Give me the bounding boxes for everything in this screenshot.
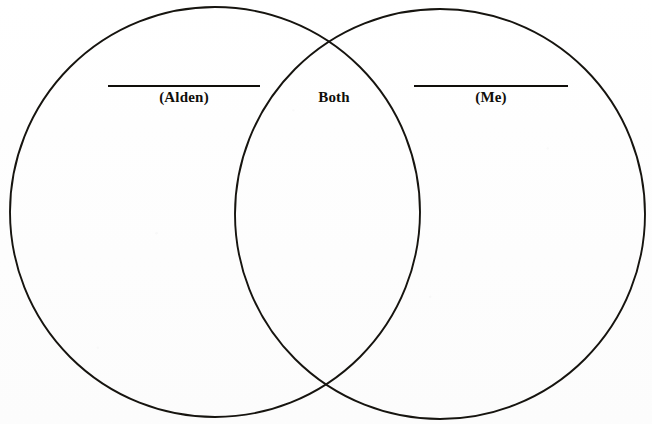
blank-rule-left[interactable] (108, 85, 260, 87)
venn-label-center: Both (294, 89, 374, 106)
venn-diagram-worksheet: (Alden) Both (Me) (0, 0, 652, 424)
write-zone-right-only[interactable] (370, 110, 640, 390)
venn-label-right: (Me) (414, 89, 568, 106)
venn-label-left: (Alden) (108, 89, 260, 106)
write-zone-left-only[interactable] (20, 110, 290, 390)
blank-rule-right[interactable] (414, 85, 568, 87)
